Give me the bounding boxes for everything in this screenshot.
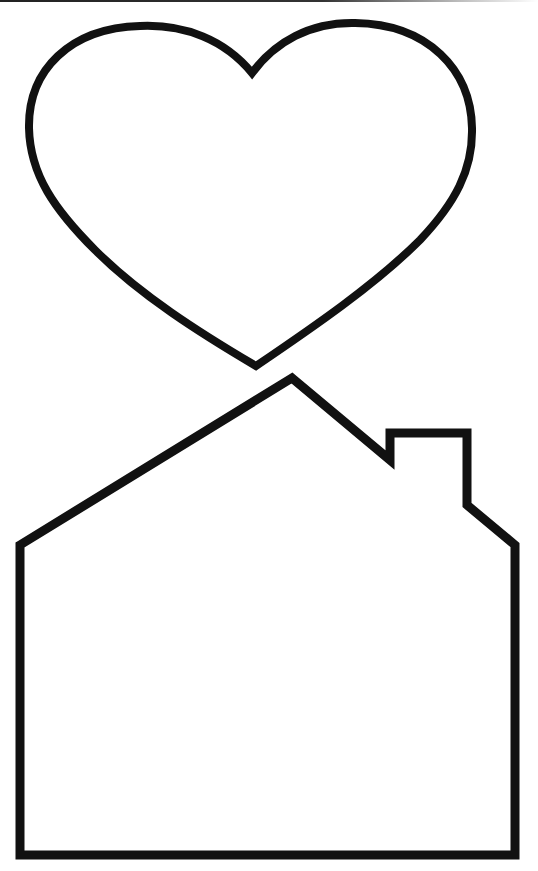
house-outline-icon <box>20 378 515 855</box>
drawing-canvas <box>0 0 538 871</box>
heart-outline-icon <box>29 23 472 366</box>
